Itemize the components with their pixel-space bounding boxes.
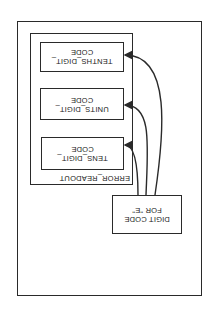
edge-to-tenths — [125, 55, 162, 195]
edges-layer — [0, 0, 214, 314]
edge-to-tens — [125, 145, 138, 195]
diagram-canvas: ERROR_READOUT TENS_DIGIT_ CODE UNITS_DIG… — [0, 0, 214, 314]
edge-to-units — [125, 105, 147, 195]
